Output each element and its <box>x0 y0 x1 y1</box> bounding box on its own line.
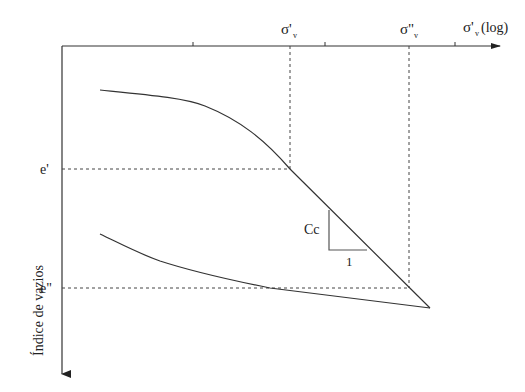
x-axis-label: σ' <box>463 19 474 35</box>
sigma1-label: σ' <box>281 21 292 37</box>
slope-triangle <box>329 210 367 250</box>
consolidation-diagram: Cc 1 σ' v σ" v σ' v (log) e' e" Índice d… <box>0 0 525 392</box>
cc-label: Cc <box>304 222 320 237</box>
y-axis-label: Índice de vazios <box>30 265 46 356</box>
unloading-curve <box>100 234 430 308</box>
slope-one-label: 1 <box>346 254 353 269</box>
x-axis-label-subscript: v <box>475 29 479 38</box>
sigma2-subscript: v <box>414 31 418 40</box>
loading-curve <box>100 90 430 308</box>
reference-dashed-lines <box>62 46 409 288</box>
sigma1-subscript: v <box>293 31 297 40</box>
x-axis-label-suffix: (log) <box>481 20 509 36</box>
sigma2-label: σ" <box>400 21 414 37</box>
e1-label: e' <box>40 162 49 177</box>
